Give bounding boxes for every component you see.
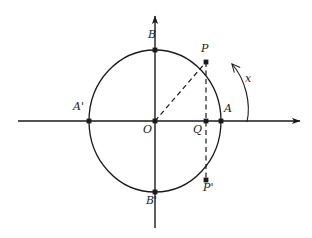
label-arc-measure-x: x bbox=[245, 73, 251, 84]
label-point-a-prime: A' bbox=[73, 101, 84, 112]
label-point-p-prime: P' bbox=[203, 182, 213, 193]
point-marker-P bbox=[204, 60, 209, 65]
label-point-a: A bbox=[224, 103, 232, 114]
point-marker-A bbox=[219, 119, 224, 124]
point-marker-Q bbox=[204, 119, 209, 124]
radius-op-dashed bbox=[155, 62, 206, 121]
label-point-p: P bbox=[201, 43, 208, 54]
label-origin: O bbox=[143, 124, 152, 135]
label-point-q: Q bbox=[193, 124, 202, 135]
label-point-b-prime: B' bbox=[146, 195, 157, 206]
point-marker-A-prime bbox=[87, 119, 92, 124]
label-point-b: B bbox=[148, 29, 156, 40]
point-marker-O bbox=[153, 119, 158, 124]
trigonometry-circle-figure: O A A' B B' P P' Q x bbox=[0, 0, 312, 238]
point-marker-B bbox=[153, 48, 158, 53]
